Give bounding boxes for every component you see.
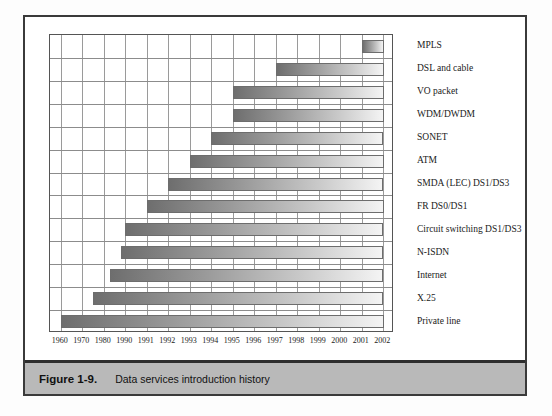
category-label-column: MPLSDSL and cableVO packetWDM/DWDMSONETA…	[397, 34, 547, 332]
row-separator	[50, 173, 392, 174]
figure-caption-bar: Figure 1-9. Data services introduction h…	[25, 360, 525, 394]
bar-fr-ds0-ds1	[147, 200, 384, 213]
x-axis-tick-labels: 1960197019801990199119921993199419951996…	[49, 334, 393, 350]
category-label: MPLS	[417, 40, 442, 50]
x-tick-1998: 1998	[288, 336, 304, 345]
row-separator	[50, 195, 392, 196]
category-label: WDM/DWDM	[417, 109, 475, 119]
bar-atm	[190, 155, 384, 168]
bar-vo-packet	[233, 86, 384, 99]
bar-x-25	[93, 292, 383, 305]
x-tick-1997: 1997	[267, 336, 283, 345]
row-separator	[50, 310, 392, 311]
row-separator	[50, 58, 392, 59]
bar-dsl-and-cable	[276, 63, 384, 76]
row-separator	[50, 127, 392, 128]
x-tick-1990: 1990	[116, 336, 132, 345]
row-separator	[50, 150, 392, 151]
figure-screenshot: MPLSDSL and cableVO packetWDM/DWDMSONETA…	[0, 0, 552, 416]
figure-caption-text: Data services introduction history	[115, 373, 270, 385]
x-tick-1999: 1999	[310, 336, 326, 345]
category-label: DSL and cable	[417, 63, 473, 73]
bar-smda-lec-ds1-ds3	[168, 178, 383, 191]
bar-circuit-switching-ds1-ds3	[125, 223, 383, 236]
figure-number: Figure 1-9.	[39, 373, 97, 385]
row-separator	[50, 104, 392, 105]
bar-wdm-dwdm	[233, 109, 384, 122]
bar-mpls	[362, 40, 384, 53]
row-separator	[50, 241, 392, 242]
figure-frame: MPLSDSL and cableVO packetWDM/DWDMSONETA…	[23, 15, 527, 396]
x-tick-1992: 1992	[159, 336, 175, 345]
bar-sonet	[211, 132, 383, 145]
x-tick-2001: 2001	[353, 336, 369, 345]
x-tick-1960: 1960	[52, 336, 68, 345]
row-separator	[50, 218, 392, 219]
x-tick-1970: 1970	[73, 336, 89, 345]
category-label: FR DS0/DS1	[417, 201, 467, 211]
x-tick-2002: 2002	[374, 336, 390, 345]
row-separator	[50, 264, 392, 265]
category-label: Circuit switching DS1/DS3	[417, 224, 522, 234]
x-tick-1995: 1995	[224, 336, 240, 345]
category-label: VO packet	[417, 86, 458, 96]
x-tick-1994: 1994	[202, 336, 218, 345]
category-label: ATM	[417, 155, 437, 165]
chart-plot-area	[49, 34, 393, 332]
x-tick-1980: 1980	[95, 336, 111, 345]
x-tick-1993: 1993	[181, 336, 197, 345]
category-label: SONET	[417, 132, 448, 142]
row-separator	[50, 287, 392, 288]
x-tick-1991: 1991	[138, 336, 154, 345]
category-label: Internet	[417, 270, 447, 280]
bar-n-isdn	[121, 246, 383, 259]
category-label: X.25	[417, 293, 436, 303]
bar-internet	[110, 269, 383, 282]
x-tick-1996: 1996	[245, 336, 261, 345]
category-label: Private line	[417, 316, 461, 326]
bar-private-line	[61, 315, 384, 328]
category-label: N-ISDN	[417, 247, 449, 257]
category-label: SMDA (LEC) DS1/DS3	[417, 178, 509, 188]
x-tick-2000: 2000	[331, 336, 347, 345]
row-separator	[50, 81, 392, 82]
